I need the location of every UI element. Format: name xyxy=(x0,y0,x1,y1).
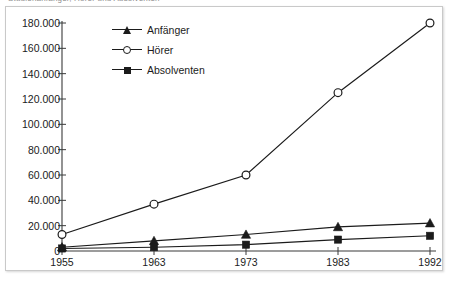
x-tick-label: 1955 xyxy=(50,257,73,268)
legend-label: Anfänger xyxy=(147,25,190,36)
x-tick-label: 1983 xyxy=(326,257,349,268)
legend-item: Hörer xyxy=(112,40,232,60)
chart-figure-frame: 020.00040.00060.00080.000100.000120.0001… xyxy=(5,6,443,271)
y-tick-label: 20.000 xyxy=(28,220,60,231)
legend-item: Anfänger xyxy=(112,20,232,40)
legend-marker xyxy=(124,67,131,74)
caption-sliver: Studienanfänger, Hörer und Absolventen xyxy=(8,0,208,4)
y-tick-label: 100.000 xyxy=(22,119,60,130)
legend-marker xyxy=(123,46,131,54)
x-tick-label: 1973 xyxy=(234,257,257,268)
plot-area: 020.00040.00060.00080.000100.000120.0001… xyxy=(6,7,444,272)
y-tick-label: 140.000 xyxy=(22,68,60,79)
y-tick-label: 120.000 xyxy=(22,94,60,105)
y-tick-label: 180.000 xyxy=(22,18,60,29)
legend-label: Hörer xyxy=(147,45,173,56)
square-marker-icon xyxy=(112,63,142,77)
y-tick-label: 60.000 xyxy=(28,170,60,181)
y-axis-tick-labels: 020.00040.00060.00080.000100.000120.0001… xyxy=(6,7,60,272)
x-axis-tick-labels: 19551963197319831992 xyxy=(6,254,444,270)
triangle-marker-icon xyxy=(112,23,142,37)
chart-legend: AnfängerHörerAbsolventen xyxy=(112,20,232,80)
circle-marker-icon xyxy=(112,43,142,57)
x-tick-label: 1992 xyxy=(418,257,441,268)
x-tick-label: 1963 xyxy=(142,257,165,268)
legend-item: Absolventen xyxy=(112,60,232,80)
y-tick-label: 160.000 xyxy=(22,43,60,54)
legend-label: Absolventen xyxy=(147,65,205,76)
y-tick-label: 40.000 xyxy=(28,195,60,206)
legend-marker xyxy=(123,26,131,34)
y-tick-label: 80.000 xyxy=(28,144,60,155)
